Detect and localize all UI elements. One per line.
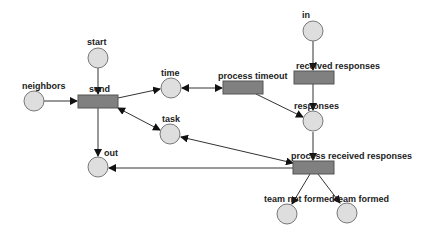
label-responses: responses xyxy=(294,101,339,111)
place-team-formed[interactable] xyxy=(337,203,357,223)
label-process-received-responses: process received responses xyxy=(291,151,412,161)
place-team-not-formed[interactable] xyxy=(277,204,297,224)
label-received-responses: received responses xyxy=(296,61,380,71)
transition-process-timeout[interactable] xyxy=(223,81,263,94)
place-in[interactable] xyxy=(303,21,323,41)
place-time[interactable] xyxy=(161,78,181,98)
label-out: out xyxy=(104,148,118,158)
label-start: start xyxy=(87,37,107,47)
label-process-timeout: process timeout xyxy=(218,71,288,81)
place-task[interactable] xyxy=(160,124,180,144)
arc-process-received-task xyxy=(181,137,293,163)
label-send: send xyxy=(89,84,110,94)
transition-send[interactable] xyxy=(78,95,118,108)
petri-net-diagram: start neighbors time task out in respons… xyxy=(0,0,422,241)
place-neighbors[interactable] xyxy=(24,91,44,111)
label-time: time xyxy=(161,68,180,78)
place-start[interactable] xyxy=(88,48,108,68)
label-neighbors: neighbors xyxy=(22,81,66,91)
arc-send-time xyxy=(118,89,160,98)
arc-send-task xyxy=(118,108,160,130)
place-out[interactable] xyxy=(88,157,108,177)
label-team-not-formed: team not formed xyxy=(264,194,335,204)
transition-received-responses[interactable] xyxy=(294,71,334,84)
label-task: task xyxy=(162,114,181,124)
transition-process-received-responses[interactable] xyxy=(293,161,334,174)
place-responses[interactable] xyxy=(303,111,323,131)
label-team-formed: team formed xyxy=(335,194,389,204)
label-in: in xyxy=(302,10,310,20)
